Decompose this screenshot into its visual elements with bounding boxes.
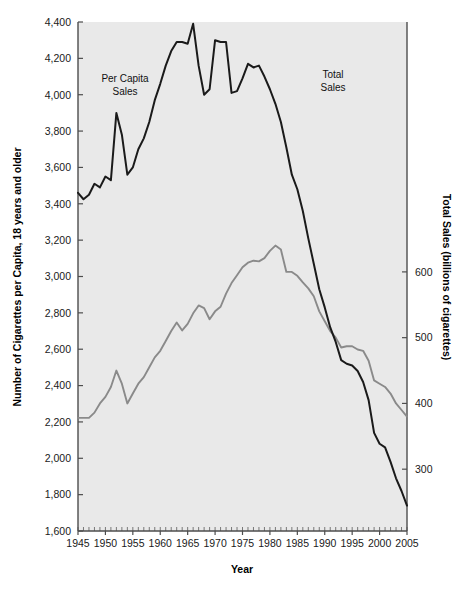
y-left-tick-label: 3,200 [45,234,71,246]
x-tick-label: 1995 [340,537,364,549]
x-tick-label: 1950 [94,537,118,549]
annotation-per-capita-sales-line2: Sales [112,86,137,97]
y-left-tick-label: 1,600 [45,525,71,537]
y-left-tick-label: 4,400 [45,16,71,28]
y-axis-right-title: Total Sales (billions of cigarettes) [441,194,453,361]
y-axis-left-title: Number of Cigarettes per Capita, 18 year… [11,147,23,406]
x-tick-label: 2000 [368,537,392,549]
y-left-tick-label: 2,800 [45,307,71,319]
y-right-tick-label: 400 [415,397,433,409]
x-tick-label: 1965 [176,537,200,549]
annotation-total-sales-line1: Total [322,69,343,80]
plot-area-background [78,22,407,531]
y-left-tick-label: 3,800 [45,125,71,137]
y-right-tick-label: 500 [415,331,433,343]
x-tick-label: 1990 [313,537,337,549]
x-tick-label: 1945 [66,537,90,549]
y-right-tick-label: 300 [415,463,433,475]
x-tick-label: 1970 [203,537,227,549]
y-left-tick-label: 3,000 [45,270,71,282]
x-tick-label: 1980 [258,537,282,549]
y-right-tick-label: 600 [415,266,433,278]
y-left-tick-label: 4,200 [45,52,71,64]
y-left-tick-label: 2,400 [45,379,71,391]
x-tick-label: 1955 [121,537,145,549]
y-left-tick-label: 1,800 [45,488,71,500]
cigarette-sales-chart: 1945195019551960196519701975198019851990… [0,0,458,590]
y-left-tick-label: 4,000 [45,89,71,101]
x-tick-label: 2005 [395,537,419,549]
y-left-tick-label: 2,600 [45,343,71,355]
y-left-tick-label: 2,200 [45,416,71,428]
annotation-total-sales-line2: Sales [320,82,345,93]
y-left-tick-label: 2,000 [45,452,71,464]
y-axis-left-tick-labels: 1,6001,8002,0002,2002,4002,6002,8003,000… [45,16,71,537]
chart-canvas: 1945195019551960196519701975198019851990… [0,0,458,590]
x-tick-label: 1985 [286,537,310,549]
annotation-per-capita-sales-line1: Per Capita [101,73,149,84]
x-tick-label: 1975 [231,537,255,549]
y-left-tick-label: 3,600 [45,161,71,173]
x-tick-label: 1960 [149,537,173,549]
y-left-tick-label: 3,400 [45,198,71,210]
x-axis-title: Year [231,563,253,575]
